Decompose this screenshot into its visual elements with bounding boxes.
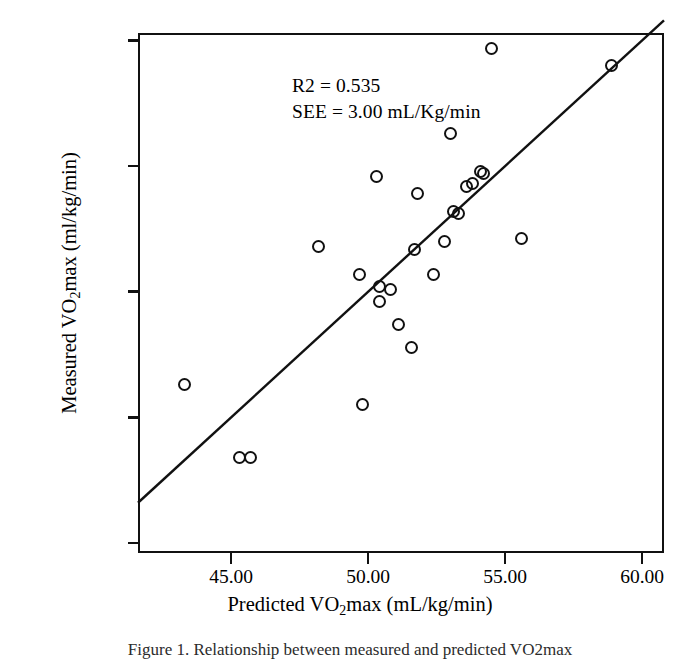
figure-caption: Figure 1. Relationship between measured … [0, 640, 700, 660]
scatter-point [353, 268, 366, 281]
x-tick-label: 50.00 [313, 566, 423, 588]
statistics-annotation: R2 = 0.535 SEE = 3.00 mL/Kg/min [292, 73, 481, 126]
see-text: SEE = 3.00 mL/Kg/min [292, 99, 481, 125]
scatter-point [477, 167, 490, 180]
y-axis-title-subscript: 2 [68, 292, 83, 299]
scatter-point [444, 127, 457, 140]
scatter-point [466, 177, 479, 190]
x-tick-label: 55.00 [450, 566, 560, 588]
y-axis-title-post: max (ml/kg/min) [58, 152, 80, 292]
x-tick-label: 45.00 [176, 566, 286, 588]
plot-frame: R2 = 0.535 SEE = 3.00 mL/Kg/min [138, 33, 664, 553]
x-tick-mark [230, 553, 233, 564]
scatter-point [384, 283, 397, 296]
scatter-point [408, 243, 421, 256]
x-tick-mark [367, 553, 370, 564]
y-axis-title: Measured VO2max (ml/kg/min) [58, 73, 84, 493]
x-axis-title-post: max (mL/kg/min) [346, 593, 492, 615]
r-squared-text: R2 = 0.535 [292, 73, 481, 99]
scatter-point [373, 295, 386, 308]
x-tick-mark [504, 553, 507, 564]
x-tick-mark [641, 553, 644, 564]
scatter-point [485, 42, 498, 55]
scatter-point [370, 170, 383, 183]
scatter-point [392, 318, 405, 331]
x-axis-title: Predicted VO2max (mL/kg/min) [150, 593, 570, 619]
x-tick-label: 60.00 [587, 566, 697, 588]
scatter-point [244, 451, 257, 464]
scatter-point [427, 268, 440, 281]
scatter-point [405, 341, 418, 354]
x-axis-title-pre: Predicted VO [227, 593, 339, 615]
y-axis-title-pre: Measured VO [58, 299, 80, 414]
